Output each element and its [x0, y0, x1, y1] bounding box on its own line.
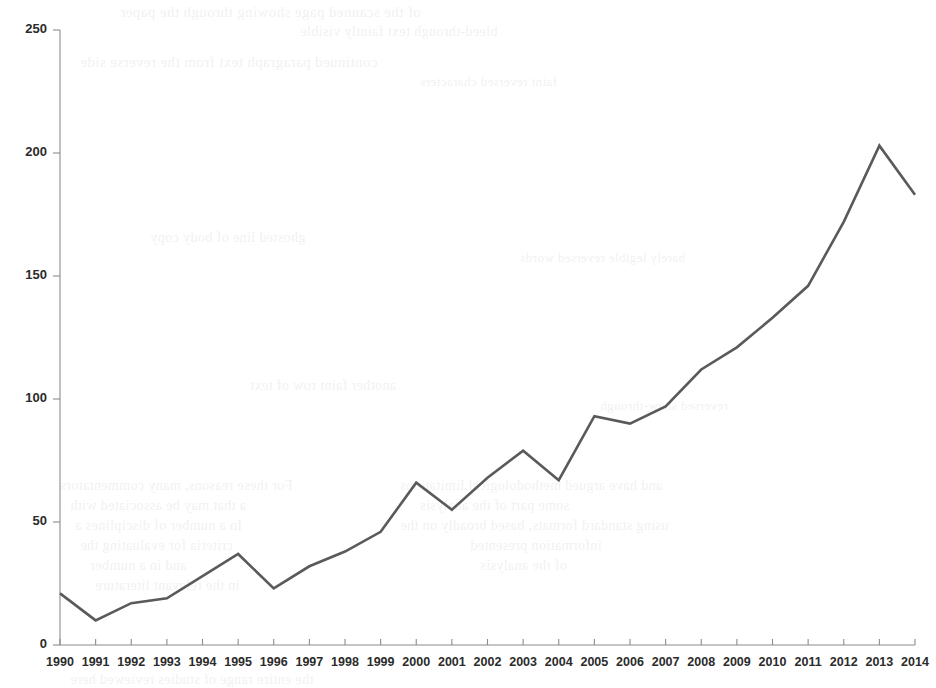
- x-axis-tick-label: 2013: [865, 655, 893, 669]
- x-axis-tick-label: 2011: [795, 655, 822, 669]
- data-series-group: [60, 146, 915, 621]
- x-axis-tick-label: 2014: [901, 655, 929, 669]
- x-axis-tick-label: 1999: [367, 655, 395, 669]
- y-axis-tick-label: 200: [25, 144, 47, 159]
- chart-page: of the scanned page showing through the …: [0, 0, 936, 688]
- x-axis-tick-label: 2005: [580, 655, 608, 669]
- x-axis-tick-label: 1995: [224, 655, 252, 669]
- x-axis-tick-label: 1994: [189, 655, 217, 669]
- x-axis-tick-label: 2009: [723, 655, 751, 669]
- x-axis-tick-label: 2012: [830, 655, 858, 669]
- y-axis-tick-label: 250: [25, 21, 47, 36]
- y-tick-labels: 050100150200250: [25, 21, 47, 651]
- x-axis-tick-label: 2010: [759, 655, 787, 669]
- x-axis-tick-label: 1998: [331, 655, 359, 669]
- x-axis-tick-label: 2004: [545, 655, 573, 669]
- y-axis-tick-label: 50: [33, 513, 47, 528]
- y-axis-tick-label: 100: [25, 390, 47, 405]
- chart-canvas: 050100150200250 199019911992199319941995…: [0, 0, 936, 688]
- x-axis-tick-label: 1993: [153, 655, 181, 669]
- x-axis-tick-label: 2008: [687, 655, 715, 669]
- y-axis-tick-label: 150: [25, 267, 47, 282]
- x-axis-tick-label: 2002: [474, 655, 502, 669]
- x-axis-tick-label: 1997: [295, 655, 323, 669]
- x-axis-tick-label: 2006: [616, 655, 644, 669]
- x-axis-tick-label: 1990: [46, 655, 74, 669]
- x-axis-tick-label: 1991: [82, 655, 110, 669]
- x-tick-labels: 1990199119921993199419951996199719981999…: [46, 655, 929, 669]
- line-chart: 050100150200250 199019911992199319941995…: [0, 0, 936, 688]
- x-axis-tick-label: 2000: [402, 655, 430, 669]
- x-axis-tick-label: 2001: [438, 655, 466, 669]
- y-axis: [53, 30, 60, 645]
- y-axis-tick-label: 0: [40, 636, 47, 651]
- data-series-line: [60, 146, 915, 621]
- x-axis: [60, 639, 915, 645]
- x-axis-tick-label: 1992: [117, 655, 145, 669]
- x-axis-tick-label: 1996: [260, 655, 288, 669]
- x-axis-tick-label: 2007: [652, 655, 680, 669]
- x-axis-tick-label: 2003: [509, 655, 537, 669]
